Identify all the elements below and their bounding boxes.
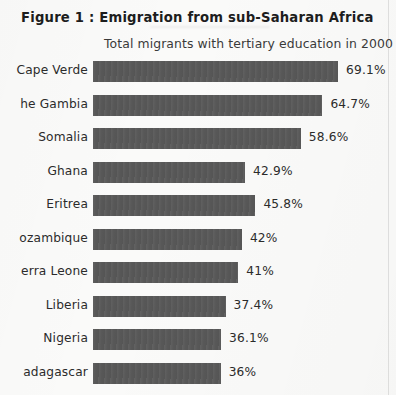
chart-row: ozambique42% [0, 228, 396, 262]
category-label: Ghana [0, 164, 88, 178]
category-label: ozambique [0, 231, 88, 245]
bar-value-label: 36% [229, 365, 257, 379]
bar [93, 61, 338, 82]
bar-value-label: 58.6% [309, 130, 349, 144]
bar-value-label: 42% [250, 231, 278, 245]
bar-value-label: 37.4% [234, 298, 274, 312]
bar-value-label: 69.1% [346, 63, 386, 77]
bar-chart-plot-area: Cape Verde69.1%he Gambia64.7%Somalia58.6… [0, 60, 396, 395]
bar-value-label: 41% [246, 264, 274, 278]
bar-value-label: 36.1% [229, 331, 269, 345]
category-label: adagascar [0, 365, 88, 379]
bar [93, 95, 322, 116]
chart-row: Ghana42.9% [0, 161, 396, 195]
chart-row: Nigeria36.1% [0, 328, 396, 362]
category-label: Cape Verde [0, 63, 88, 77]
bar-value-label: 45.8% [263, 197, 303, 211]
scan-artifact [150, 26, 270, 28]
chart-row: Eritrea45.8% [0, 194, 396, 228]
chart-row: adagascar36% [0, 362, 396, 395]
chart-row: Liberia37.4% [0, 295, 396, 329]
category-label: Somalia [0, 130, 88, 144]
figure-container: Figure 1 : Emigration from sub-Saharan A… [0, 0, 396, 395]
bar-value-label: 42.9% [253, 164, 293, 178]
chart-row: he Gambia64.7% [0, 94, 396, 128]
figure-subtitle: Total migrants with tertiary education i… [104, 36, 393, 51]
bar [93, 329, 221, 350]
category-label: Nigeria [0, 331, 88, 345]
figure-title: Figure 1 : Emigration from sub-Saharan A… [21, 10, 374, 25]
bar [93, 229, 242, 250]
category-label: Eritrea [0, 197, 88, 211]
category-label: Liberia [0, 298, 88, 312]
bar [93, 296, 226, 317]
bar-value-label: 64.7% [330, 97, 370, 111]
bar [93, 128, 301, 149]
chart-row: Cape Verde69.1% [0, 60, 396, 94]
bar [93, 195, 255, 216]
chart-row: Somalia58.6% [0, 127, 396, 161]
category-label: erra Leone [0, 264, 88, 278]
bar [93, 363, 221, 384]
chart-row: erra Leone41% [0, 261, 396, 295]
category-label: he Gambia [0, 97, 88, 111]
bar [93, 262, 238, 283]
bar [93, 162, 245, 183]
